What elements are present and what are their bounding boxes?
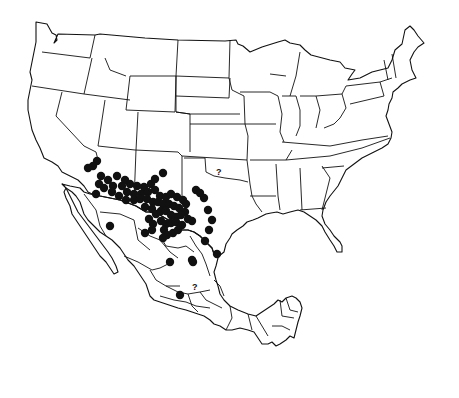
occurrence-dot [188, 217, 196, 225]
occurrence-dot [100, 184, 108, 192]
occurrence-dot [213, 250, 221, 258]
occurrence-dot [176, 291, 184, 299]
occurrence-dot [166, 258, 174, 266]
occurrence-dot [106, 222, 114, 230]
occurrence-points [84, 157, 221, 299]
occurrence-dot [200, 194, 208, 202]
occurrence-dot [92, 190, 100, 198]
occurrence-dot [113, 172, 121, 180]
occurrence-dot [141, 229, 149, 237]
occurrence-dot [205, 226, 213, 234]
occurrence-dot [84, 164, 92, 172]
distribution-map: ? ? [0, 0, 459, 398]
occurrence-dot [188, 256, 196, 264]
occurrence-dot [174, 226, 182, 234]
uncertain-marker-mexico: ? [192, 282, 198, 292]
baja-california-outline [64, 188, 118, 274]
uncertain-marker-oklahoma: ? [216, 167, 222, 177]
occurrence-dot [151, 175, 159, 183]
occurrence-dot [159, 234, 167, 242]
occurrence-dot [159, 169, 167, 177]
state-borders [32, 35, 396, 336]
occurrence-dot [204, 206, 212, 214]
country-outlines [28, 22, 424, 346]
occurrence-dot [208, 216, 216, 224]
us-outline [28, 22, 424, 256]
occurrence-dot [182, 200, 190, 208]
occurrence-dot [201, 237, 209, 245]
occurrence-dot [122, 196, 130, 204]
